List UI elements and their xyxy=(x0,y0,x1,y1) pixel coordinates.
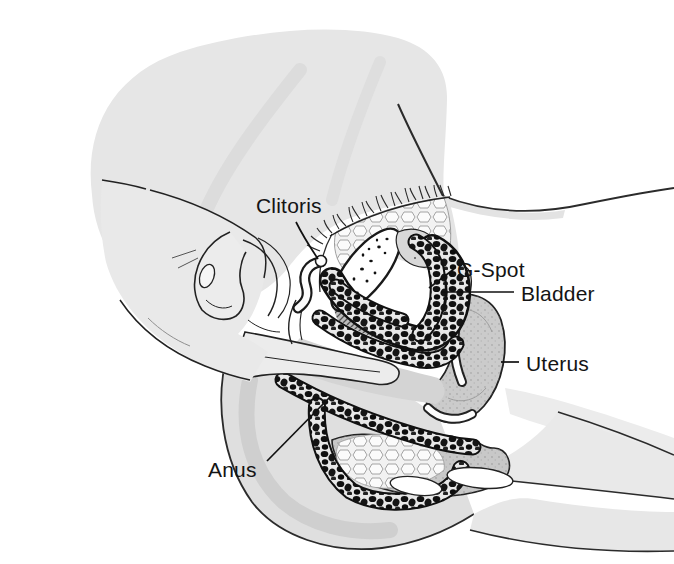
label-bladder: Bladder xyxy=(521,282,595,305)
label-clitoris: Clitoris xyxy=(256,194,322,217)
label-g-spot: G-Spot xyxy=(457,258,525,281)
anatomy-figure: Clitoris G-Spot Bladder Uterus Anus xyxy=(0,0,674,564)
label-uterus: Uterus xyxy=(526,352,589,375)
label-anus: Anus xyxy=(208,458,257,481)
anatomy-illustration-page: Clitoris G-Spot Bladder Uterus Anus xyxy=(0,0,674,564)
